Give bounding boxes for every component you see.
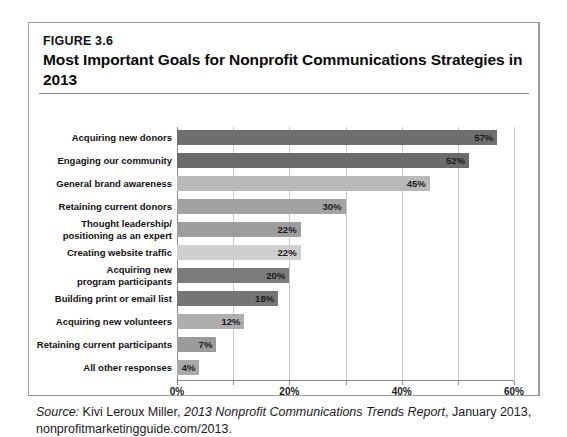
x-axis-tick xyxy=(402,381,403,385)
bar-row: 30% xyxy=(177,199,514,214)
category-label: All other responses xyxy=(29,362,172,374)
figure-card: FIGURE 3.6 Most Important Goals for Nonp… xyxy=(28,22,540,396)
title-divider xyxy=(39,93,529,94)
bar-value-label: 4% xyxy=(182,363,196,373)
bar-value-label: 18% xyxy=(255,294,274,304)
bar-value-label: 52% xyxy=(446,156,465,166)
category-label: Retaining current participants xyxy=(29,339,172,351)
category-label: Acquiring new program participants xyxy=(29,264,172,287)
bar-row: 22% xyxy=(177,245,514,260)
category-label: General brand awareness xyxy=(29,178,172,190)
bar-row: 18% xyxy=(177,291,514,306)
bar-row: 12% xyxy=(177,314,514,329)
x-axis-tick xyxy=(346,381,347,385)
figure-header: FIGURE 3.6 Most Important Goals for Nonp… xyxy=(43,33,527,90)
bar-value-label: 22% xyxy=(278,225,297,235)
bar-value-label: 22% xyxy=(278,248,297,258)
category-label: Thought leadership/ positioning as an ex… xyxy=(29,218,172,241)
category-label: Creating website traffic xyxy=(29,247,172,259)
bar-value-label: 30% xyxy=(322,202,341,212)
source-label: Source: xyxy=(36,405,79,419)
bar xyxy=(177,176,430,191)
bar xyxy=(177,199,346,214)
bar-row: 57% xyxy=(177,130,514,145)
bar-chart: Acquiring new donorsEngaging our communi… xyxy=(29,103,541,393)
x-axis-tick-label: 20% xyxy=(279,386,299,397)
x-axis-tick-label: 0% xyxy=(170,386,184,397)
figure-number: FIGURE 3.6 xyxy=(43,33,527,49)
x-axis-tick-label: 60% xyxy=(504,386,524,397)
bar-value-label: 45% xyxy=(407,179,426,189)
plot-area: 0%20%40%60%57%52%45%30%22%22%20%18%12%7%… xyxy=(177,127,514,388)
category-label: Engaging our community xyxy=(29,155,172,167)
bar-value-label: 7% xyxy=(199,340,213,350)
category-label: Building print or email list xyxy=(29,293,172,305)
bar-row: 52% xyxy=(177,153,514,168)
bar-value-label: 57% xyxy=(474,133,493,143)
x-axis-tick xyxy=(514,381,515,385)
gridline xyxy=(514,127,515,380)
bar xyxy=(177,153,469,168)
category-label: Acquiring new donors xyxy=(29,132,172,144)
bar-row: 20% xyxy=(177,268,514,283)
x-axis-tick xyxy=(233,381,234,385)
source-author: Kivi Leroux Miller, xyxy=(79,405,184,419)
source-report-title: 2013 Nonprofit Communications Trends Rep… xyxy=(184,405,445,419)
bar-row: 45% xyxy=(177,176,514,191)
source-note: Source: Kivi Leroux Miller, 2013 Nonprof… xyxy=(36,404,536,437)
bar-row: 22% xyxy=(177,222,514,237)
bar-value-label: 20% xyxy=(266,271,285,281)
bar xyxy=(177,130,497,145)
bar-row: 7% xyxy=(177,337,514,352)
x-axis-tick xyxy=(177,381,178,385)
x-axis-tick xyxy=(458,381,459,385)
category-axis-labels: Acquiring new donorsEngaging our communi… xyxy=(29,127,172,388)
x-axis-tick-label: 40% xyxy=(392,386,412,397)
category-label: Retaining current donors xyxy=(29,201,172,213)
bar-value-label: 12% xyxy=(221,317,240,327)
x-axis-tick xyxy=(289,381,290,385)
bar-row: 4% xyxy=(177,360,514,375)
page-title: Most Important Goals for Nonprofit Commu… xyxy=(43,50,527,90)
category-label: Acquiring new volunteers xyxy=(29,316,172,328)
